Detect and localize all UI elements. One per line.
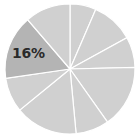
pie-chart: [0, 0, 140, 140]
highlighted-slice-label: 16%: [12, 45, 45, 61]
